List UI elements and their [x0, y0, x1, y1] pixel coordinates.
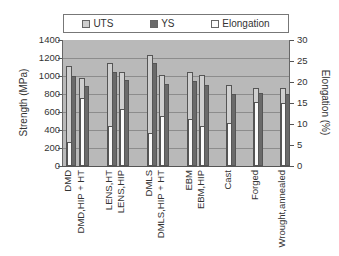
gridline [63, 58, 289, 59]
x-tick-label: LENS,HT [103, 170, 114, 256]
bar-elongation [67, 142, 72, 166]
y-tick-right: 0 [297, 160, 302, 171]
tick-mark [290, 82, 294, 83]
tick-mark [290, 40, 294, 41]
x-tick-label: DMD [62, 170, 73, 256]
x-tick-label: Forged [249, 170, 260, 256]
bar-elongation [200, 126, 205, 166]
tick-mark [58, 130, 62, 131]
plot-area [62, 40, 290, 166]
y-tick-left: 1200 [30, 52, 60, 63]
x-tick-label: Wrought,annealed [276, 170, 287, 256]
tick-mark [58, 76, 62, 77]
y-tick-left: 600 [30, 106, 60, 117]
y-axis-right-label: Elongation (%) [320, 68, 331, 138]
gridline [63, 76, 289, 77]
bar-elongation [80, 98, 85, 166]
elongation-swatch-icon [211, 20, 219, 28]
x-axis [62, 166, 290, 167]
legend-item-elongation: Elongation [211, 18, 269, 29]
ys-swatch-icon [150, 20, 158, 28]
x-tick-label: Cast [222, 170, 233, 256]
y-tick-left: 1000 [30, 70, 60, 81]
bar-elongation [108, 126, 113, 166]
legend-label: YS [161, 18, 174, 29]
y-tick-left: 200 [30, 142, 60, 153]
y-tick-right: 30 [297, 34, 308, 45]
y-tick-right: 10 [297, 118, 308, 129]
y-tick-right: 25 [297, 55, 308, 66]
tick-mark [290, 166, 294, 167]
bar-elongation [120, 109, 125, 166]
uts-swatch-icon [82, 20, 90, 28]
tick-mark [58, 112, 62, 113]
x-tick-label: EBM [183, 170, 194, 256]
bar-elongation [281, 103, 286, 166]
tick-mark [58, 166, 62, 167]
tick-mark [58, 148, 62, 149]
tick-mark [290, 61, 294, 62]
y-tick-left: 0 [30, 160, 60, 171]
y-tick-right: 15 [297, 97, 308, 108]
tick-mark [290, 103, 294, 104]
x-tick-label: DMLS,HIP + HT [155, 170, 166, 256]
y-tick-left: 800 [30, 88, 60, 99]
tick-mark [290, 124, 294, 125]
bar-elongation [188, 119, 193, 166]
y-axis-left-label: Strength (MPa) [18, 68, 29, 138]
legend-label: Elongation [222, 18, 269, 29]
x-tick-label: LENS,HIP [115, 170, 126, 256]
legend-label: UTS [93, 18, 113, 29]
bar-elongation [160, 116, 165, 166]
legend-item-uts: UTS [82, 18, 113, 29]
x-tick-label: DMD,HIP + HT [75, 170, 86, 256]
chart-legend: UTS YS Elongation [63, 14, 289, 33]
tick-mark [58, 40, 62, 41]
tick-mark [290, 145, 294, 146]
x-tick-label: DMLS [143, 170, 154, 256]
y-tick-right: 5 [297, 139, 302, 150]
bar-elongation [227, 123, 232, 166]
bar-elongation [148, 133, 153, 166]
legend-item-ys: YS [150, 18, 174, 29]
y-tick-right: 20 [297, 76, 308, 87]
bar-elongation [254, 102, 259, 166]
y-tick-left: 1400 [30, 34, 60, 45]
tick-mark [58, 58, 62, 59]
x-tick-label: EBM,HIP [195, 170, 206, 256]
tick-mark [58, 94, 62, 95]
y-tick-left: 400 [30, 124, 60, 135]
